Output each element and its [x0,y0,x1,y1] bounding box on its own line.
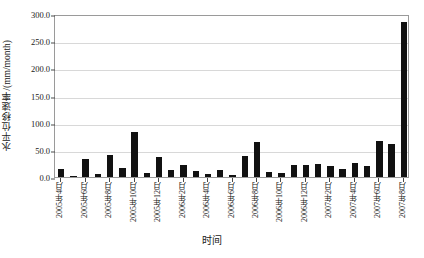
y-axis-tick-label: 200.0 [31,65,50,74]
bar [70,176,76,177]
plot-area [54,15,409,178]
bar [119,168,125,177]
x-axis-tick-label: 2006年6月 [228,182,236,218]
bar [266,172,272,177]
x-axis-tick-label: 2005年10月 [130,182,138,222]
bar [352,163,358,177]
y-axis-tick-label: 100.0 [31,119,50,128]
bar [131,132,137,177]
x-axis-tick-label: 2007年8月 [399,182,407,218]
x-axis-tick-label: 2006年4月 [203,182,211,218]
bar [107,155,113,177]
bar [95,174,101,177]
bar [315,164,321,177]
bar [217,170,223,177]
bar [205,174,211,177]
bar [254,142,260,177]
y-axis-tick-label: 50.0 [35,147,50,156]
x-axis-title-text: 时间 [202,235,222,246]
bar [303,165,309,177]
x-axis-tick-label: 2005年6月 [81,182,89,218]
y-axis-tick-label: 150.0 [31,92,50,101]
bar [144,173,150,177]
bars-layer [55,16,408,177]
bar [229,175,235,177]
x-axis-tick-label: 2006年8月 [252,182,260,218]
x-axis-tick-label: 2007年6月 [374,182,382,218]
x-axis-title: 时间 [0,236,424,246]
x-axis-tick-label: 2005年12月 [154,182,162,222]
bar [388,144,394,177]
bar [58,169,64,177]
bar [278,173,284,177]
bar [168,170,174,177]
bar [156,157,162,177]
x-axis-tick-label: 2006年12月 [301,182,309,222]
y-axis-title-text: 水平位移速率/(mm/month) [3,40,13,151]
bar [193,171,199,177]
bar [180,165,186,177]
x-axis-tick-label: 2007年4月 [350,182,358,218]
bar [242,156,248,177]
x-axis-tick-label: 2005年8月 [105,182,113,218]
bar-chart-figure: 水平位移速率/(mm/month) 0.050.0100.0150.0200.0… [0,0,424,258]
x-axis-tick-label: 2007年2月 [325,182,333,218]
bar [339,169,345,177]
bar [376,141,382,177]
y-axis-tick-label: 0.0 [39,174,50,183]
bar [291,165,297,177]
y-axis-tick-labels: 0.050.0100.0150.0200.0250.0300.0 [14,15,50,178]
x-axis-tick-label: 2006年2月 [179,182,187,218]
x-axis-tick-label: 2006年10月 [276,182,284,222]
bar [82,159,88,177]
bar [327,166,333,177]
x-axis-tick-labels: 2005年4月2005年6月2005年8月2005年10月2005年12月200… [54,182,409,234]
y-axis-tick-label: 300.0 [31,11,50,20]
bar [364,166,370,177]
x-axis-tick-label: 2005年4月 [56,182,64,218]
bar [401,22,407,177]
y-axis-tick-label: 250.0 [31,38,50,47]
